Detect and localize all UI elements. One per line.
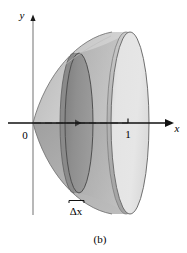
x-axis-arrowhead [165, 119, 174, 127]
y-axis-label: y [19, 9, 25, 21]
x-axis-label: x [174, 122, 180, 134]
delta-x-label: Δx [70, 205, 83, 217]
delta-x-bracket [69, 201, 84, 204]
figure-caption: (b) [94, 233, 107, 246]
origin-label: 0 [22, 129, 28, 141]
x-tick-label-1: 1 [125, 128, 131, 140]
figure-container: y [0, 0, 187, 253]
y-axis-arrowhead [30, 15, 35, 22]
y-axis: y [19, 9, 36, 215]
solid-of-revolution-figure: y [0, 0, 187, 253]
delta-x-annotation: Δx [69, 201, 84, 218]
